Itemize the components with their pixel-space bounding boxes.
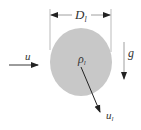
diameter-label: Dl — [74, 7, 87, 24]
inflow-label: u — [25, 50, 31, 62]
droplet-diagram: Dl u g ρl ul — [0, 0, 141, 130]
gravity-label: g — [128, 46, 134, 60]
droplet-velocity-label: ul — [106, 109, 114, 123]
